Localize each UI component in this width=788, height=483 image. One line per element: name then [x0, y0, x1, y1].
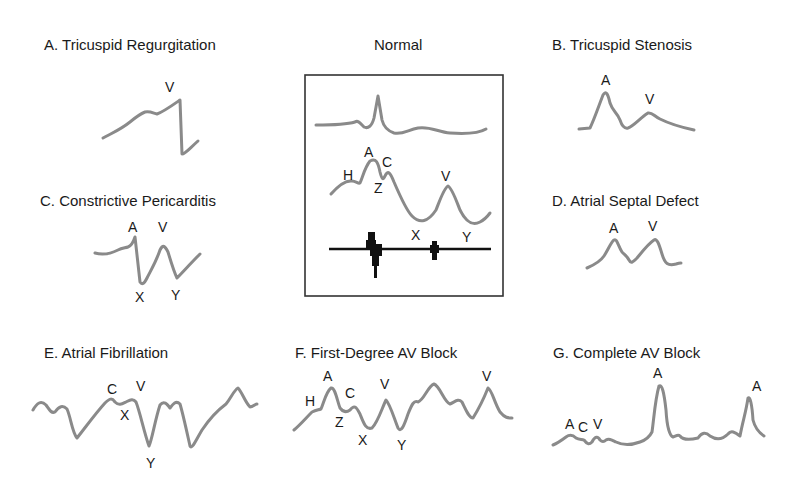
- wave-label-a: A: [565, 416, 575, 432]
- wave-label-a: A: [601, 72, 611, 88]
- wave-label-c: C: [578, 419, 588, 435]
- wave-label-y: Y: [462, 229, 472, 245]
- wave-label-a-dissociated-2: A: [752, 378, 762, 394]
- wave-label-c: C: [345, 385, 355, 401]
- wave-label-v-second: V: [482, 368, 492, 384]
- waveform-first-degree-av-block: [294, 384, 512, 430]
- wave-label-y: Y: [397, 437, 407, 453]
- wave-label-y: Y: [171, 287, 181, 303]
- panel-atrial-septal-defect: A V: [587, 218, 681, 268]
- wave-label-h: H: [343, 167, 353, 183]
- waveform-atrial-fibrillation: [33, 388, 257, 447]
- panel-atrial-fibrillation: C V X Y: [33, 378, 257, 471]
- panel-constrictive-pericarditis: A V X Y: [95, 219, 200, 305]
- wave-label-v: V: [158, 219, 168, 235]
- wave-label-z: Z: [374, 180, 383, 196]
- panel-tricuspid-stenosis: A V: [579, 72, 694, 130]
- waveform-tricuspid-stenosis: [579, 93, 694, 130]
- wave-label-h: H: [305, 393, 315, 409]
- wave-label-x: X: [358, 432, 368, 448]
- wave-label-x: X: [411, 227, 421, 243]
- wave-label-a: A: [609, 220, 619, 236]
- wave-label-v: V: [165, 79, 175, 95]
- wave-label-z: Z: [335, 414, 344, 430]
- wave-label-y: Y: [146, 455, 156, 471]
- wave-label-a: A: [128, 219, 138, 235]
- wave-label-x: X: [135, 289, 145, 305]
- wave-label-v: V: [441, 168, 451, 184]
- normal-frame: [305, 75, 503, 296]
- panel-complete-av-block: A C V A A: [553, 365, 764, 445]
- panel-first-degree-av-block: H A C Z V X Y V: [294, 368, 512, 453]
- wave-label-a: A: [364, 144, 374, 160]
- jugular-venous-pulse-trace: [331, 160, 490, 223]
- waveform-constrictive-pericarditis: [95, 237, 200, 284]
- waveform-complete-av-block: [553, 386, 764, 445]
- wave-label-v: V: [136, 378, 146, 394]
- second-heart-sound-s2: [430, 241, 439, 260]
- wave-label-v: V: [648, 218, 658, 234]
- wave-label-c: C: [107, 381, 117, 397]
- first-heart-sound-s1: [366, 232, 382, 278]
- wave-label-v: V: [645, 91, 655, 107]
- wave-label-x: X: [120, 407, 130, 423]
- wave-label-a-dissociated-1: A: [653, 365, 663, 381]
- waveform-diagram: V H A C Z V X Y A V: [0, 0, 788, 483]
- ecg-trace: [316, 96, 486, 134]
- wave-label-a: A: [323, 368, 333, 384]
- panel-normal: H A C Z V X Y: [305, 75, 503, 296]
- waveform-tricuspid-regurgitation: [103, 100, 198, 154]
- wave-label-v: V: [593, 416, 603, 432]
- waveform-atrial-septal-defect: [587, 240, 681, 268]
- panel-tricuspid-regurgitation: V: [103, 79, 198, 154]
- wave-label-c: C: [382, 154, 392, 170]
- wave-label-v: V: [380, 376, 390, 392]
